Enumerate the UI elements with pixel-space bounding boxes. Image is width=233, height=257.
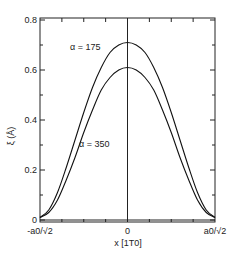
x-tick-label: 0 <box>125 226 130 236</box>
y-tick-label: 0.4 <box>24 115 37 125</box>
ticks: 00.20.40.60.8-a0/√20a0/√2 <box>24 15 226 236</box>
y-tick-label: 0.6 <box>24 65 37 75</box>
plot-frame <box>40 18 215 222</box>
annotation-alpha-175: α = 175 <box>70 42 100 52</box>
y-axis-title: ξ (Å) <box>6 127 16 146</box>
x-tick-label: -a0/√2 <box>27 226 52 236</box>
x-axis-title: x [1T0] <box>114 238 142 248</box>
y-tick-label: 0.2 <box>24 165 37 175</box>
y-tick-label: 0 <box>32 215 37 225</box>
chart: 00.20.40.60.8-a0/√20a0/√2 ξ (Å) x [1T0] … <box>0 0 233 257</box>
y-tick-label: 0.8 <box>24 15 37 25</box>
x-tick-label: a0/√2 <box>204 226 226 236</box>
annotation-alpha-350: α = 350 <box>79 139 109 149</box>
